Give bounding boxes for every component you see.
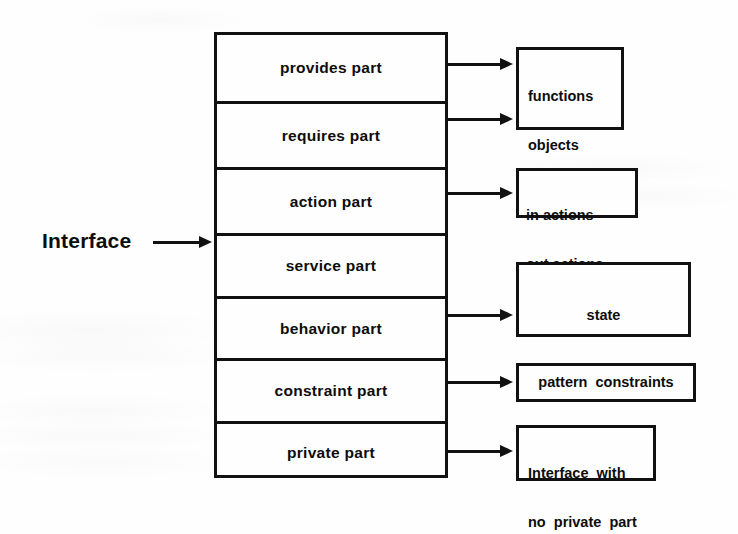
requires-connector-line: [448, 118, 502, 121]
part-row-action[interactable]: action part: [217, 167, 445, 233]
detail-line-no-private-part: no private part: [528, 514, 653, 530]
provides-connector-line: [448, 63, 502, 66]
detail-box-behavior[interactable]: state state transitions: [516, 262, 691, 337]
private-connector-line: [448, 450, 502, 453]
right-arrow-icon: [500, 376, 513, 388]
right-arrow-icon: [199, 236, 212, 248]
detail-line-in-actions: in actions: [526, 207, 635, 223]
detail-box-provides-requires[interactable]: functions objects types: [516, 47, 624, 130]
detail-line-objects: objects: [528, 137, 621, 153]
interface-label: Interface: [42, 229, 131, 253]
detail-line-functions: functions: [528, 88, 621, 104]
right-arrow-icon: [500, 309, 513, 321]
constraint-connector-line: [448, 381, 502, 384]
detail-box-action[interactable]: in actions out actions: [516, 168, 638, 218]
detail-line-interface-with: Interface with: [528, 465, 653, 481]
right-arrow-icon: [500, 445, 513, 457]
interface-main-column: provides part requires part action part …: [214, 32, 448, 478]
right-arrow-icon: [500, 113, 513, 125]
part-row-constraint[interactable]: constraint part: [217, 358, 445, 421]
right-arrow-icon: [500, 58, 513, 70]
part-row-service[interactable]: service part: [217, 233, 445, 296]
part-row-behavior[interactable]: behavior part: [217, 296, 445, 358]
detail-box-constraint[interactable]: pattern constraints: [516, 363, 696, 402]
detail-line-pattern-constraints: pattern constraints: [538, 374, 673, 390]
part-row-provides[interactable]: provides part: [217, 35, 445, 101]
part-row-private[interactable]: private part: [217, 421, 445, 481]
part-row-requires[interactable]: requires part: [217, 101, 445, 167]
detail-box-private[interactable]: Interface with no private part: [516, 425, 656, 481]
action-connector-line: [448, 192, 502, 195]
behavior-connector-line: [448, 314, 502, 317]
right-arrow-icon: [500, 187, 513, 199]
detail-line-state: state: [519, 297, 688, 332]
